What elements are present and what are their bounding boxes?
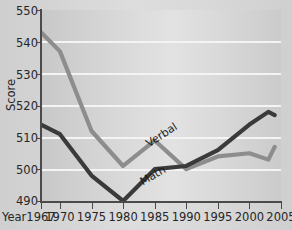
x-tick-mark — [155, 203, 156, 209]
y-tick-label-510: 510 — [0, 133, 38, 143]
x-tick-mark — [41, 203, 42, 209]
x-tick-label-1970: 1970 — [45, 210, 74, 224]
x-tick-label-2005: 2005 — [266, 210, 292, 224]
verbal-line — [41, 32, 275, 169]
plot-area: Verbal Math — [41, 10, 281, 201]
x-tick-label-1980: 1980 — [108, 210, 137, 224]
y-tick-label-520: 520 — [0, 101, 38, 111]
y-tick-label-490: 490 — [0, 196, 38, 206]
x-tick-label-2000: 2000 — [235, 210, 264, 224]
x-axis-title: Year — [2, 210, 26, 224]
x-axis-line — [40, 201, 282, 203]
x-tick-mark — [249, 203, 250, 209]
x-tick-mark — [281, 203, 282, 209]
x-tick-mark — [60, 203, 61, 209]
y-tick-label-530: 530 — [0, 70, 38, 80]
math-line — [41, 112, 275, 201]
x-tick-mark — [186, 203, 187, 209]
y-tick-label-500: 500 — [0, 165, 38, 175]
y-tick-label-540: 540 — [0, 38, 38, 48]
x-tick-mark — [123, 203, 124, 209]
x-tick-label-1995: 1995 — [203, 210, 232, 224]
y-tick-label-550: 550 — [0, 6, 38, 16]
x-tick-label-1990: 1990 — [172, 210, 201, 224]
chart-figure: Score 550 540 530 520 510 500 490 Verbal… — [0, 0, 292, 230]
y-axis-line — [40, 9, 42, 203]
x-tick-label-1985: 1985 — [140, 210, 169, 224]
x-tick-mark — [92, 203, 93, 209]
x-tick-mark — [218, 203, 219, 209]
x-tick-label-1975: 1975 — [77, 210, 106, 224]
